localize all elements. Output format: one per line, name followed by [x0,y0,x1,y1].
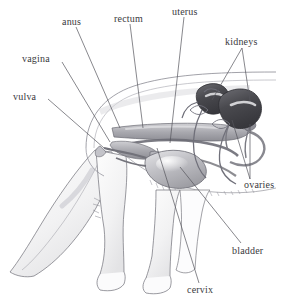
label-uterus: uterus [172,7,198,17]
label-rectum: rectum [114,14,143,24]
label-kidneys: kidneys [225,37,258,47]
label-vagina: vagina [22,54,50,64]
label-cervix: cervix [187,285,213,295]
label-anus: anus [62,17,81,27]
label-bladder: bladder [232,246,263,256]
bladder-highlight [156,156,188,172]
label-ovaries: ovaries [244,180,274,190]
label-vulva: vulva [13,92,36,102]
